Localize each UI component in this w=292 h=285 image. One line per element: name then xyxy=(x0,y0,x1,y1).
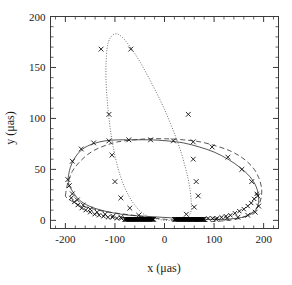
orbit-plot-svg: -200-1000100200 050100150200 x (μas) y (… xyxy=(0,0,292,285)
data-marker-x xyxy=(101,214,105,218)
y-tick-label: 0 xyxy=(40,214,46,226)
x-tick-labels: -200-1000100200 xyxy=(55,233,272,245)
data-marker-x xyxy=(184,212,189,217)
data-marker-x xyxy=(210,216,214,220)
y-tick-labels: 050100150200 xyxy=(29,11,46,227)
y-tick-label: 150 xyxy=(29,61,46,73)
data-marker-x xyxy=(191,139,196,144)
outer-solid-orbit-curve xyxy=(68,140,259,220)
y-axis-label: y (μas) xyxy=(3,111,17,144)
x-tick-label: 200 xyxy=(255,233,272,245)
data-point-markers xyxy=(65,47,261,222)
data-marker-x xyxy=(219,215,223,219)
inner-dashed-orbit-curve xyxy=(65,139,261,222)
data-marker-x xyxy=(192,205,197,210)
data-marker-x xyxy=(194,179,199,184)
data-marker-x xyxy=(252,197,256,201)
y-tick-label: 200 xyxy=(29,11,46,23)
x-tick-label: -200 xyxy=(55,233,76,245)
data-marker-x xyxy=(196,193,201,198)
data-marker-x xyxy=(242,207,246,211)
data-marker-x xyxy=(186,112,191,117)
x-tick-label: 0 xyxy=(162,233,168,245)
x-tick-label: -100 xyxy=(105,233,126,245)
data-marker-x xyxy=(69,196,73,200)
data-marker-x xyxy=(110,153,115,158)
data-marker-x xyxy=(237,209,241,213)
tall-dotted-orbit-curve xyxy=(106,34,192,221)
data-marker-x xyxy=(67,183,72,188)
x-axis-label: x (μas) xyxy=(147,261,180,275)
data-marker-x xyxy=(206,216,210,220)
data-marker-x xyxy=(246,204,250,208)
data-marker-x xyxy=(93,212,97,216)
data-marker-x xyxy=(127,206,132,211)
data-marker-x xyxy=(84,208,88,212)
astrometry-orbit-figure: -200-1000100200 050100150200 x (μas) y (… xyxy=(0,0,292,285)
data-marker-x xyxy=(256,204,261,209)
data-marker-x xyxy=(106,215,110,219)
data-marker-x xyxy=(113,179,118,184)
data-marker-x xyxy=(228,213,232,217)
data-marker-x xyxy=(210,145,215,150)
data-marker-x xyxy=(233,211,237,215)
axis-ticks xyxy=(51,17,279,229)
plot-frame xyxy=(51,17,279,229)
data-marker-x xyxy=(118,196,123,201)
x-tick-label: 100 xyxy=(206,233,223,245)
data-marker-x xyxy=(99,47,104,52)
data-marker-x xyxy=(88,210,92,214)
data-marker-x xyxy=(239,167,244,172)
y-tick-label: 50 xyxy=(35,163,47,175)
data-marker-x xyxy=(191,157,196,162)
y-tick-label: 100 xyxy=(29,112,46,124)
